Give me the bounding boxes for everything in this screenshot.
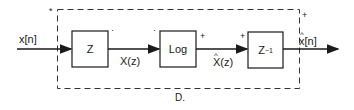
system-label: D. [175, 92, 185, 103]
input-signal-label: x[n] [19, 34, 37, 45]
log-out-plus: + [200, 32, 205, 41]
log-label: Log [160, 31, 196, 67]
output-corner-plus: + [302, 11, 307, 20]
input-corner-mark: * [49, 7, 53, 16]
z-out-mark: · [111, 26, 114, 35]
z-output-label: X(z) [120, 56, 140, 67]
z-transform-label: Z [72, 31, 108, 67]
log-output-label: X(z) [213, 57, 233, 68]
output-signal-label: x[n] [299, 36, 317, 47]
inverse-z-label: Z−1 [248, 32, 283, 68]
log-in-mark: · [153, 26, 156, 35]
invz-in-plus: + [240, 32, 245, 41]
